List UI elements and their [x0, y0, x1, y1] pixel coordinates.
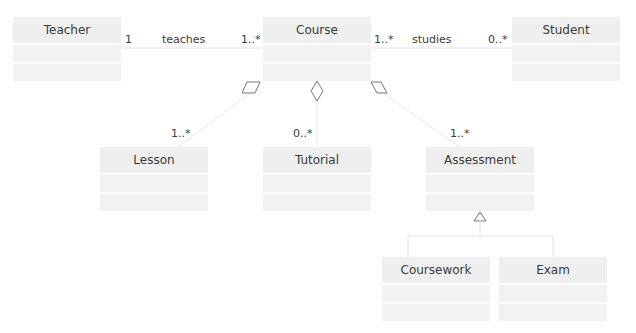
- attributes-section: [512, 45, 620, 62]
- association-label-teaches: teaches: [162, 33, 205, 46]
- generalization-triangle: [474, 212, 486, 221]
- class-teacher[interactable]: Teacher: [13, 17, 121, 81]
- attributes-section: [13, 45, 121, 62]
- multiplicity-course-studies: 1..*: [374, 33, 394, 46]
- multiplicity-student: 0..*: [488, 33, 508, 46]
- class-name: Lesson: [100, 147, 208, 173]
- methods-section: [382, 304, 490, 321]
- methods-section: [426, 194, 534, 211]
- class-name: Teacher: [13, 17, 121, 43]
- class-course[interactable]: Course: [263, 17, 371, 81]
- attributes-section: [499, 285, 607, 302]
- methods-section: [263, 194, 371, 211]
- class-lesson[interactable]: Lesson: [100, 147, 208, 211]
- methods-section: [13, 64, 121, 81]
- class-name: Coursework: [382, 257, 490, 283]
- association-label-studies: studies: [412, 33, 452, 46]
- class-name: Course: [263, 17, 371, 43]
- multiplicity-lesson: 1..*: [171, 127, 191, 140]
- aggregation-diamond-tutorial: [311, 81, 323, 101]
- class-name: Assessment: [426, 147, 534, 173]
- methods-section: [263, 64, 371, 81]
- class-coursework[interactable]: Coursework: [382, 257, 490, 321]
- class-name: Tutorial: [263, 147, 371, 173]
- multiplicity-teacher: 1: [125, 33, 132, 46]
- class-name: Student: [512, 17, 620, 43]
- attributes-section: [426, 175, 534, 192]
- class-exam[interactable]: Exam: [499, 257, 607, 321]
- multiplicity-tutorial: 0..*: [293, 127, 313, 140]
- class-student[interactable]: Student: [512, 17, 620, 81]
- aggregation-diamond-lesson: [242, 82, 260, 93]
- aggregation-diamond-assessment: [371, 82, 387, 93]
- class-assessment[interactable]: Assessment: [426, 147, 534, 211]
- methods-section: [499, 304, 607, 321]
- attributes-section: [263, 45, 371, 62]
- attributes-section: [263, 175, 371, 192]
- methods-section: [512, 64, 620, 81]
- attributes-section: [382, 285, 490, 302]
- class-name: Exam: [499, 257, 607, 283]
- methods-section: [100, 194, 208, 211]
- multiplicity-assessment: 1..*: [450, 127, 470, 140]
- attributes-section: [100, 175, 208, 192]
- class-tutorial[interactable]: Tutorial: [263, 147, 371, 211]
- multiplicity-course-teaches: 1..*: [241, 33, 261, 46]
